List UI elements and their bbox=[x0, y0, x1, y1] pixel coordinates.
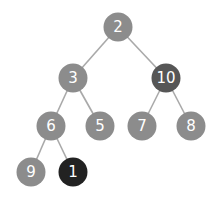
node-label: 8 bbox=[186, 117, 196, 135]
tree-node-6: 6 bbox=[37, 112, 66, 141]
tree-node-5: 5 bbox=[86, 112, 115, 141]
node-label: 1 bbox=[68, 163, 78, 181]
tree-node-1: 1 bbox=[59, 158, 88, 187]
tree-node-7: 7 bbox=[128, 112, 157, 141]
node-label: 7 bbox=[137, 117, 147, 135]
tree-node-8: 8 bbox=[177, 112, 206, 141]
binary-tree-diagram: 2 3 10 6 5 7 8 9 1 bbox=[0, 0, 221, 200]
node-label: 6 bbox=[46, 117, 56, 135]
node-label: 9 bbox=[26, 163, 36, 181]
tree-node-3: 3 bbox=[59, 64, 88, 93]
tree-node-9: 9 bbox=[17, 158, 46, 187]
tree-node-2: 2 bbox=[104, 13, 133, 42]
node-label: 10 bbox=[156, 69, 175, 87]
edges bbox=[31, 27, 191, 172]
tree-node-10: 10 bbox=[152, 64, 181, 93]
node-label: 5 bbox=[95, 117, 105, 135]
node-label: 2 bbox=[113, 18, 123, 36]
node-label: 3 bbox=[68, 69, 78, 87]
